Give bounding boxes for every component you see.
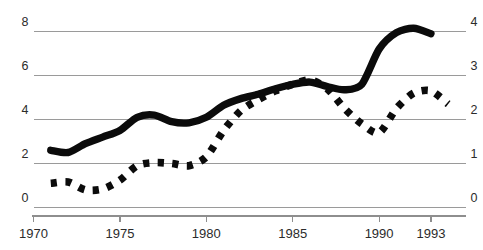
solid-series-line [51, 28, 431, 152]
right-axis-tick-label: 2 [471, 103, 478, 117]
right-axis-tick-labels: 01234 [471, 15, 478, 205]
chart-container: 02468 01234 197019751980198519901993 [0, 0, 483, 250]
left-axis-tick-label: 2 [22, 147, 29, 161]
left-axis-tick-label: 8 [22, 15, 29, 29]
gridlines [34, 32, 466, 208]
right-axis-tick-label: 1 [471, 147, 478, 161]
x-axis-tick-labels: 197019751980198519901993 [19, 226, 445, 241]
left-axis-tick-label: 4 [22, 103, 29, 117]
right-axis-tick-label: 4 [471, 15, 478, 29]
x-axis-tick-label: 1975 [105, 226, 134, 241]
left-axis-tick-labels: 02468 [22, 15, 29, 205]
x-axis-tick-label: 1985 [278, 226, 307, 241]
x-axis-tick-label: 1990 [365, 226, 394, 241]
x-axis-tick-label: 1993 [416, 226, 445, 241]
left-axis-tick-label: 0 [22, 191, 29, 205]
x-axis-tick-label: 1970 [19, 226, 48, 241]
data-series [51, 28, 448, 190]
right-axis-tick-label: 0 [471, 191, 478, 205]
right-axis-tick-label: 3 [471, 59, 478, 73]
axes [32, 216, 466, 222]
x-axis-tick-label: 1980 [192, 226, 221, 241]
dual-axis-line-chart: 02468 01234 197019751980198519901993 [0, 0, 483, 250]
left-axis-tick-label: 6 [22, 59, 29, 73]
